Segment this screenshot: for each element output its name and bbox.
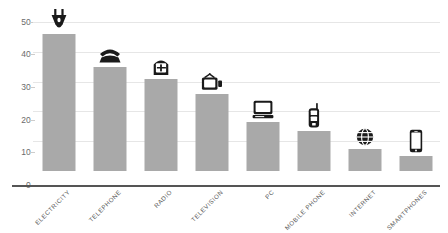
- bar-group-internet[interactable]: [339, 14, 390, 185]
- bar-group-radio[interactable]: [135, 14, 186, 185]
- bar-group-telephone[interactable]: [84, 14, 135, 185]
- desktop-computer-icon: [252, 100, 274, 119]
- bar-group-mobile-phone[interactable]: [288, 14, 339, 185]
- globe-internet-icon: [356, 128, 374, 146]
- x-label-television: TELEVISION: [190, 189, 224, 223]
- bar-radio[interactable]: [144, 79, 177, 171]
- bar-group-smartphones[interactable]: [390, 14, 441, 185]
- bar-television[interactable]: [195, 94, 228, 171]
- x-axis-labels: ELECTRICITY TELEPHONE RADIO TELEVISION P…: [33, 189, 440, 233]
- x-label-smartphones: SMARTPHONES: [386, 189, 428, 231]
- x-label-pc: PC: [264, 189, 275, 200]
- bar-internet[interactable]: [348, 149, 381, 171]
- y-axis: 50 40 30 20 10 0: [0, 0, 31, 233]
- y-tick-label-30: 30: [5, 83, 31, 92]
- mobile-phone-icon: [306, 103, 321, 128]
- radio-icon: [152, 56, 169, 76]
- x-label-mobile-phone: MOBILE PHONE: [284, 189, 326, 231]
- bar-smartphones[interactable]: [399, 156, 432, 171]
- y-tick-label-10: 10: [5, 148, 31, 157]
- rotary-telephone-icon: [97, 48, 123, 64]
- bar-telephone[interactable]: [93, 67, 126, 171]
- y-tick-label-20: 20: [5, 116, 31, 125]
- bar-mobile-phone[interactable]: [297, 131, 330, 171]
- television-icon: [201, 73, 223, 91]
- bar-electricity[interactable]: [42, 34, 75, 171]
- bar-group-pc[interactable]: [237, 14, 288, 185]
- x-label-electricity: ELECTRICITY: [34, 189, 71, 226]
- y-tick-label-50: 50: [5, 18, 31, 27]
- x-label-telephone: TELEPHONE: [88, 189, 122, 223]
- bar-group-television[interactable]: [186, 14, 237, 185]
- y-tick-label-40: 40: [5, 50, 31, 59]
- x-label-internet: INTERNET: [348, 189, 377, 218]
- smartphone-icon: [409, 129, 423, 153]
- plot-area: [33, 14, 440, 185]
- power-plug-icon: [49, 9, 69, 31]
- x-axis-baseline: [12, 185, 440, 187]
- bar-group-electricity[interactable]: [33, 14, 84, 185]
- x-label-radio: RADIO: [153, 189, 173, 209]
- bar-chart: 50 40 30 20 10 0: [0, 0, 448, 233]
- bar-pc[interactable]: [246, 122, 279, 171]
